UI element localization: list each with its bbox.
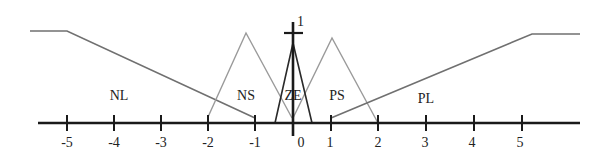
- tick-label: -1: [249, 135, 261, 150]
- tick-label: 3: [422, 135, 429, 150]
- tick-label: 2: [375, 135, 382, 150]
- tick-label: 1: [327, 135, 334, 150]
- set-nl-curve: [30, 31, 255, 118]
- tick-label: 5: [517, 135, 524, 150]
- set-label-ps: PS: [329, 88, 345, 103]
- y-max-label: 1: [297, 14, 304, 29]
- set-label-pl: PL: [418, 91, 434, 106]
- x-tick-labels: -5 -4 -3 -2 -1 0 1 2 3 4 5: [61, 135, 523, 150]
- set-ps-curve: [293, 38, 378, 123]
- tick-label: 0: [298, 135, 305, 150]
- membership-diagram: -5 -4 -3 -2 -1 0 1 2 3 4 5 1 NL NS ZE PS…: [0, 0, 601, 158]
- set-label-ze: ZE: [284, 88, 301, 103]
- tick-label: -4: [108, 135, 120, 150]
- set-label-nl: NL: [110, 88, 129, 103]
- set-label-ns: NS: [237, 88, 255, 103]
- diagram-canvas: -5 -4 -3 -2 -1 0 1 2 3 4 5 1 NL NS ZE PS…: [0, 0, 601, 158]
- tick-label: -3: [155, 135, 167, 150]
- tick-label: -5: [61, 135, 73, 150]
- tick-label: 4: [469, 135, 476, 150]
- tick-label: -2: [202, 135, 214, 150]
